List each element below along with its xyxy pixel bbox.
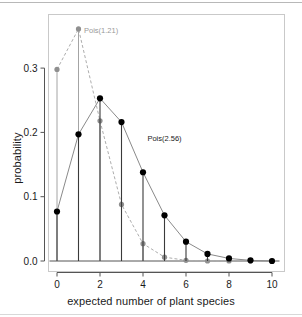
data-point-marker [54, 208, 60, 214]
x-axis-tick-label: 2 [97, 279, 103, 290]
plot-frame [49, 15, 285, 272]
series-label: Pois(1.21) [84, 26, 119, 35]
y-axis-tick-label: 0.1 [24, 191, 38, 202]
x-axis-title: expected number of plant species [0, 295, 302, 307]
data-point-marker [247, 257, 253, 263]
series-annotations: Pois(1.21)Pois(2.56) [84, 26, 182, 142]
data-point-marker [75, 131, 81, 137]
data-point-marker [226, 255, 232, 261]
poisson-pmf-plot: 02468100.00.10.20.3 Pois(1.21)Pois(2.56) [0, 0, 302, 317]
data-point-marker [161, 212, 167, 218]
data-point-marker [76, 26, 81, 31]
series-label: Pois(2.56) [147, 134, 182, 143]
x-axis-tick-label: 0 [54, 279, 60, 290]
data-point-marker [204, 251, 210, 257]
x-axis-tick-label: 8 [226, 279, 232, 290]
data-series-layer [54, 26, 275, 264]
y-axis-tick-label: 0.3 [24, 63, 38, 74]
axes-layer: 02468100.00.10.20.3 [24, 63, 280, 290]
x-axis-tick-label: 4 [140, 279, 146, 290]
data-point-marker [118, 119, 124, 125]
data-point-marker [97, 95, 103, 101]
y-axis-tick-label: 0.2 [24, 127, 38, 138]
x-axis-tick-label: 6 [183, 279, 189, 290]
data-point-marker [54, 67, 59, 72]
x-axis-tick-label: 10 [266, 279, 278, 290]
y-axis-tick-label: 0.0 [24, 256, 38, 267]
chart-figure: 02468100.00.10.20.3 Pois(1.21)Pois(2.56)… [0, 0, 302, 317]
data-point-marker [269, 258, 275, 264]
data-point-marker [140, 169, 146, 175]
y-axis-title: probability [11, 103, 23, 213]
data-series [54, 95, 275, 264]
data-point-marker [183, 239, 189, 245]
